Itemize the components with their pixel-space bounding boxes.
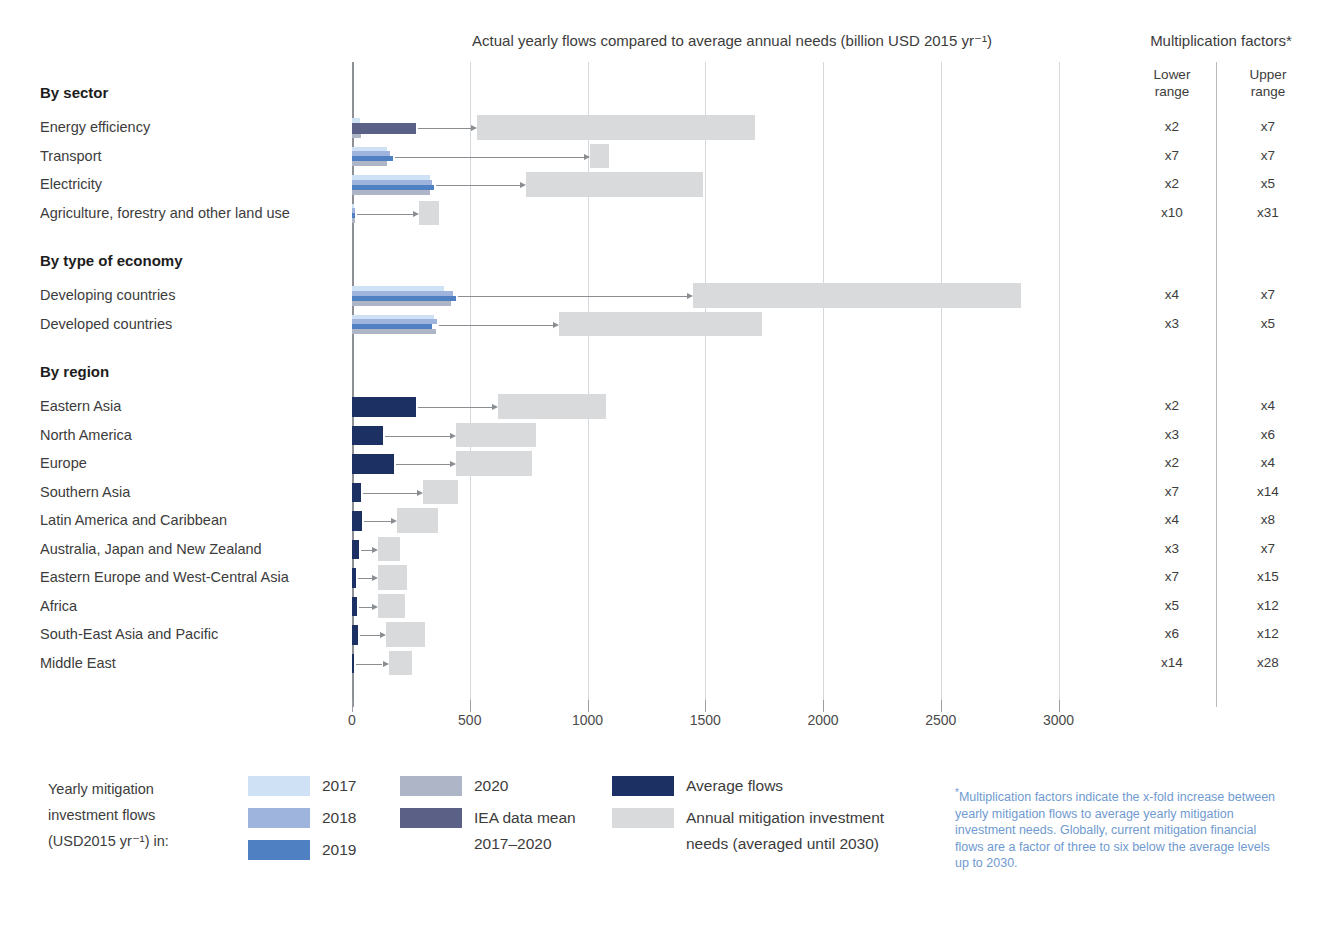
legend-swatch-needs bbox=[612, 808, 674, 828]
bar-needs-1 bbox=[590, 144, 609, 169]
gap-arrow-line-8 bbox=[396, 464, 449, 465]
row-label-developing-countries: Developing countries bbox=[40, 287, 175, 303]
gap-arrow-line-3 bbox=[357, 214, 413, 215]
gap-arrow-head-11 bbox=[372, 547, 378, 553]
factor-upper-13: x12 bbox=[1228, 598, 1308, 613]
bar-2020-2 bbox=[352, 190, 430, 195]
bar-needs-2 bbox=[526, 172, 703, 197]
bar-needs-13 bbox=[378, 594, 405, 619]
bar-iea-mean-0 bbox=[352, 123, 416, 134]
factor-lower-1: x7 bbox=[1132, 148, 1212, 163]
gap-arrow-line-7 bbox=[385, 436, 450, 437]
factor-upper-2: x5 bbox=[1228, 176, 1308, 191]
gridline-500 bbox=[470, 62, 471, 707]
legend-swatch-2019 bbox=[248, 840, 310, 860]
factor-upper-12: x15 bbox=[1228, 569, 1308, 584]
factor-upper-6: x4 bbox=[1228, 398, 1308, 413]
legend-swatch-iea-mean bbox=[400, 808, 462, 828]
xtick-label-0: 0 bbox=[348, 712, 356, 728]
xtick-label-500: 500 bbox=[458, 712, 481, 728]
factor-upper-1: x7 bbox=[1228, 148, 1308, 163]
xtick-label-3000: 3000 bbox=[1043, 712, 1074, 728]
gap-arrow-head-4 bbox=[687, 293, 693, 299]
bar-average-flows-6 bbox=[352, 397, 416, 417]
gap-arrow-head-1 bbox=[584, 154, 590, 160]
row-label-middle-east: Middle East bbox=[40, 655, 116, 671]
bar-average-flows-15 bbox=[352, 654, 354, 674]
factor-upper-11: x7 bbox=[1228, 541, 1308, 556]
xtick-label-1000: 1000 bbox=[572, 712, 603, 728]
bar-average-flows-12 bbox=[352, 568, 356, 588]
factor-lower-5: x3 bbox=[1132, 316, 1212, 331]
row-label-north-america: North America bbox=[40, 427, 132, 443]
xtick-label-1500: 1500 bbox=[690, 712, 721, 728]
factors-lower-header: Lowerrange bbox=[1132, 66, 1212, 100]
bar-needs-7 bbox=[456, 423, 536, 448]
chart-title: Actual yearly flows compared to average … bbox=[352, 32, 1112, 50]
group-heading-by-type-of-economy: By type of economy bbox=[40, 252, 183, 269]
xtick-mark-500 bbox=[470, 700, 471, 712]
factors-upper-header: Upperrange bbox=[1228, 66, 1308, 100]
legend-label-2020: 2020 bbox=[474, 776, 508, 796]
bar-average-flows-13 bbox=[352, 597, 357, 617]
xtick-mark-0 bbox=[352, 700, 353, 712]
row-label-southern-asia: Southern Asia bbox=[40, 484, 130, 500]
factor-lower-0: x2 bbox=[1132, 119, 1212, 134]
legend-intro-line1: Yearly mitigation bbox=[48, 776, 154, 802]
gap-arrow-line-0 bbox=[418, 128, 471, 129]
gridline-3000 bbox=[1059, 62, 1060, 707]
legend-swatch-2020 bbox=[400, 776, 462, 796]
gap-arrow-line-13 bbox=[359, 607, 372, 608]
gap-arrow-head-15 bbox=[383, 661, 389, 667]
legend-label-iea-mean-line1: IEA data mean bbox=[474, 808, 576, 828]
row-label-eastern-europe-and-west-central-asia: Eastern Europe and West-Central Asia bbox=[40, 569, 289, 585]
gap-arrow-head-3 bbox=[413, 211, 419, 217]
gap-arrow-head-6 bbox=[492, 404, 498, 410]
gap-arrow-head-14 bbox=[380, 632, 386, 638]
bar-needs-4 bbox=[693, 283, 1020, 308]
factor-upper-5: x5 bbox=[1228, 316, 1308, 331]
factor-lower-14: x6 bbox=[1132, 626, 1212, 641]
legend-swatch-2018 bbox=[248, 808, 310, 828]
factor-lower-4: x4 bbox=[1132, 287, 1212, 302]
legend-swatch-2017 bbox=[248, 776, 310, 796]
legend-label-needs-line1: Annual mitigation investment bbox=[686, 808, 884, 828]
gap-arrow-head-8 bbox=[450, 461, 456, 467]
bar-needs-0 bbox=[477, 115, 755, 140]
bar-average-flows-7 bbox=[352, 426, 383, 446]
bar-2020-5 bbox=[352, 329, 436, 334]
factor-upper-15: x28 bbox=[1228, 655, 1308, 670]
factor-lower-9: x7 bbox=[1132, 484, 1212, 499]
row-label-australia-japan-and-new-zealand: Australia, Japan and New Zealand bbox=[40, 541, 262, 557]
gap-arrow-head-5 bbox=[553, 322, 559, 328]
legend-intro-line2: investment flows bbox=[48, 802, 155, 828]
legend-label-2017: 2017 bbox=[322, 776, 356, 796]
row-label-europe: Europe bbox=[40, 455, 87, 471]
factor-upper-9: x14 bbox=[1228, 484, 1308, 499]
gap-arrow-head-0 bbox=[471, 125, 477, 131]
bar-needs-6 bbox=[498, 394, 606, 419]
bar-needs-12 bbox=[378, 565, 407, 590]
gap-arrow-head-9 bbox=[417, 490, 423, 496]
gap-arrow-head-10 bbox=[391, 518, 397, 524]
gap-arrow-line-4 bbox=[458, 296, 688, 297]
factor-upper-14: x12 bbox=[1228, 626, 1308, 641]
factor-lower-6: x2 bbox=[1132, 398, 1212, 413]
xtick-mark-1000 bbox=[588, 700, 589, 712]
bar-needs-14 bbox=[386, 622, 425, 647]
bar-average-flows-9 bbox=[352, 483, 361, 503]
factor-lower-13: x5 bbox=[1132, 598, 1212, 613]
factor-lower-8: x2 bbox=[1132, 455, 1212, 470]
bar-needs-5 bbox=[559, 312, 762, 337]
plot-area bbox=[352, 62, 1120, 707]
factor-lower-12: x7 bbox=[1132, 569, 1212, 584]
bar-needs-10 bbox=[397, 508, 438, 533]
gap-arrow-line-9 bbox=[363, 493, 416, 494]
bar-average-flows-10 bbox=[352, 511, 362, 531]
bar-needs-15 bbox=[389, 651, 413, 676]
bar-needs-9 bbox=[423, 480, 458, 505]
factor-upper-10: x8 bbox=[1228, 512, 1308, 527]
gap-arrow-line-1 bbox=[395, 157, 584, 158]
bar-average-flows-11 bbox=[352, 540, 359, 560]
gap-arrow-line-12 bbox=[358, 578, 372, 579]
